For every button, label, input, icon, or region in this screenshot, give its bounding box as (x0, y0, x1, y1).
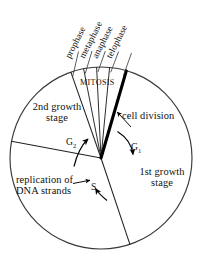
divider-s-g2 (12, 141, 102, 158)
sector-label-g2: 2nd growth stage (23, 101, 91, 123)
sector-label-s: replication of DNA strands (16, 174, 73, 196)
divider-g1-s (101, 158, 130, 245)
cell-cycle-diagram: prophase metaphase anaphase telophase MI… (0, 0, 206, 270)
sector-mark-g1: G1 (131, 142, 141, 154)
cell-division-label: cell division (122, 110, 174, 121)
sector-mark-g2: G2 (66, 137, 76, 149)
sector-mark-s: S (91, 182, 96, 194)
sector-label-g1: 1st growth stage (131, 166, 193, 188)
mitosis-group-label: MITOSIS (80, 79, 115, 88)
arrow-s (96, 189, 108, 201)
pointer-replication (73, 180, 90, 183)
